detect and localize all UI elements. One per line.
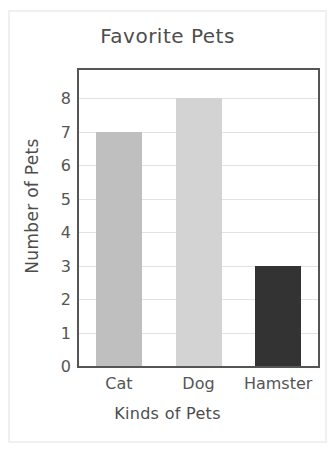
y-tick-label: 0 [45, 357, 71, 376]
bar-hamster [255, 266, 301, 366]
bar-cat [96, 132, 142, 366]
y-tick-label: 1 [45, 323, 71, 342]
y-tick-label: 2 [45, 290, 71, 309]
y-tick-label: 7 [45, 122, 71, 141]
x-tick-label-dog: Dog [182, 374, 214, 393]
y-tick-label: 6 [45, 156, 71, 175]
y-tick-label: 5 [45, 189, 71, 208]
y-axis-tick-labels: 012345678 [43, 68, 71, 368]
x-axis-tick-labels: CatDogHamster [77, 374, 320, 400]
y-axis-title: Number of Pets [22, 126, 42, 286]
x-axis-title: Kinds of Pets [0, 404, 335, 423]
bar-dog [176, 98, 222, 366]
y-tick-label: 3 [45, 256, 71, 275]
plot-area [77, 68, 320, 368]
x-tick-label-hamster: Hamster [244, 374, 312, 393]
chart-title: Favorite Pets [0, 24, 335, 48]
plot-inner [79, 70, 318, 366]
x-tick-label-cat: Cat [105, 374, 132, 393]
y-tick-label: 4 [45, 223, 71, 242]
chart-page: Favorite Pets Number of Pets 012345678 C… [0, 0, 335, 453]
y-tick-label: 8 [45, 89, 71, 108]
